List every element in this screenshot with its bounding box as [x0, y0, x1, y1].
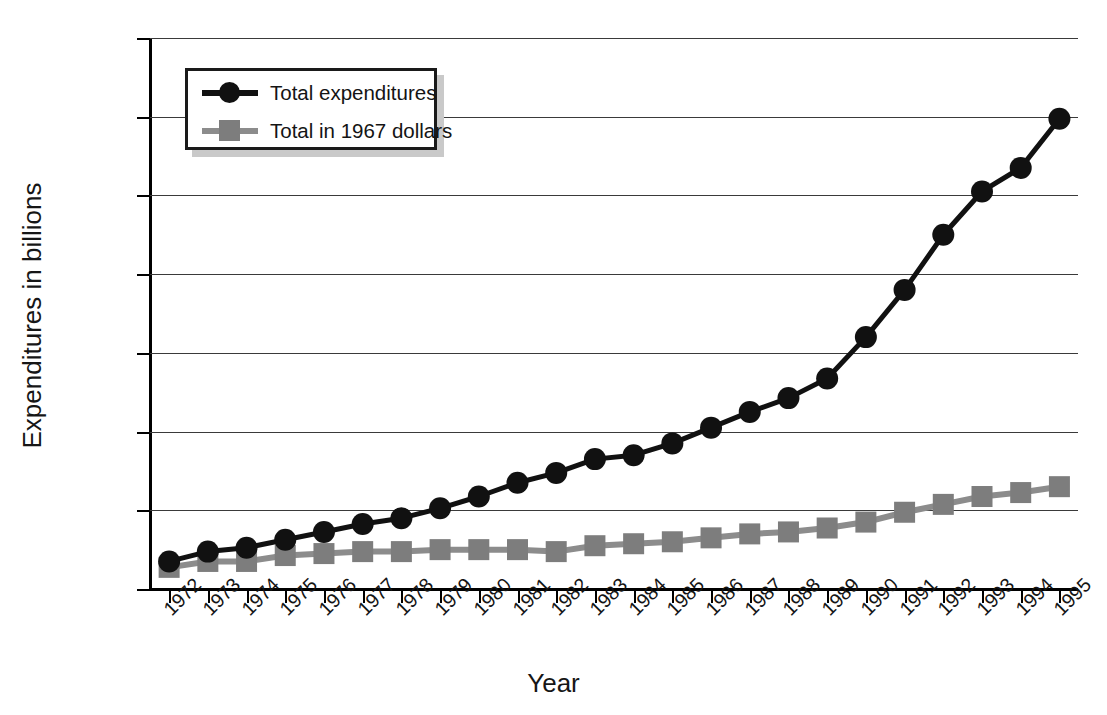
data-point: [971, 180, 993, 202]
data-point: [313, 543, 334, 564]
data-point: [391, 541, 412, 562]
data-point: [1049, 476, 1070, 497]
data-point: [236, 537, 258, 559]
data-point: [429, 497, 451, 519]
data-point: [468, 539, 489, 560]
data-point: [623, 533, 644, 554]
figure-container: Expenditures in billions $0$20$40$60$80$…: [0, 0, 1107, 715]
data-point: [778, 521, 799, 542]
data-point: [932, 224, 954, 246]
data-point: [816, 367, 838, 389]
data-point: [197, 541, 219, 563]
data-point: [972, 486, 993, 507]
data-point: [817, 518, 838, 539]
data-point: [739, 401, 761, 423]
data-point: [623, 444, 645, 466]
series-total-in-1967-dollars: [159, 476, 1070, 578]
legend-entry-total-1967-dollars: Total in 1967 dollars: [188, 112, 434, 150]
series-layer: [0, 0, 1107, 715]
legend-label-0: Total expenditures: [270, 81, 436, 105]
series-line: [169, 119, 1059, 562]
data-point: [661, 432, 683, 454]
data-point: [701, 527, 722, 548]
data-point: [313, 521, 335, 543]
data-point: [894, 279, 916, 301]
data-point: [855, 326, 877, 348]
legend-label-1: Total in 1967 dollars: [270, 119, 452, 143]
data-point: [430, 539, 451, 560]
data-point: [700, 417, 722, 439]
data-point: [274, 529, 296, 551]
data-point: [855, 512, 876, 533]
data-point: [584, 535, 605, 556]
legend-entry-total-expenditures: Total expenditures: [188, 74, 434, 112]
series-line: [169, 487, 1059, 568]
data-point: [352, 513, 374, 535]
chart-legend: Total expenditures Total in 1967 dollars: [185, 68, 437, 150]
circle-marker-icon: [202, 81, 258, 105]
square-marker-icon: [202, 119, 258, 143]
data-point: [1010, 482, 1031, 503]
data-point: [894, 502, 915, 523]
data-point: [390, 507, 412, 529]
data-point: [739, 523, 760, 544]
data-point: [1048, 108, 1070, 130]
data-point: [507, 472, 529, 494]
data-point: [662, 531, 683, 552]
data-point: [1010, 157, 1032, 179]
data-point: [777, 387, 799, 409]
data-point: [352, 541, 373, 562]
data-point: [584, 448, 606, 470]
data-point: [933, 494, 954, 515]
data-point: [546, 541, 567, 562]
data-point: [507, 539, 528, 560]
data-point: [468, 486, 490, 508]
data-point: [158, 550, 180, 572]
data-point: [545, 462, 567, 484]
